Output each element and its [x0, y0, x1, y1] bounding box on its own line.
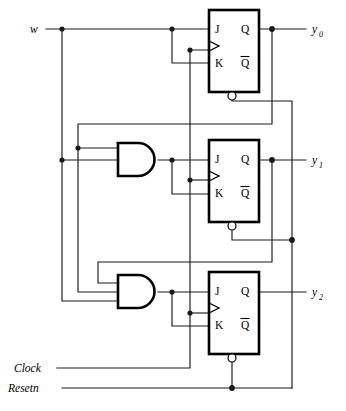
y1-sub: 1	[319, 161, 323, 170]
ff2-qbar-label: Q	[241, 319, 250, 331]
y0-output-label: y 0	[311, 23, 323, 39]
junction-clock-ff1	[187, 177, 192, 182]
flipflop-2: J Q K Q	[209, 272, 259, 362]
y0-sub: 0	[319, 30, 323, 39]
w-input-label: w	[30, 23, 38, 35]
wire-w-to-and2	[62, 29, 117, 301]
junction-ff0-jk	[169, 26, 174, 31]
ff1-q-label: Q	[241, 153, 250, 165]
junction-clock-ff0	[187, 47, 192, 52]
junction-ff2-jk	[169, 289, 174, 294]
y2-base: y	[311, 286, 318, 299]
junction-w-branch	[59, 26, 64, 31]
resetn-input-label: Resetn	[7, 382, 39, 394]
wire-ff1-reset	[232, 226, 292, 240]
junction-w-and1	[59, 157, 64, 162]
clock-input-label: Clock	[14, 362, 42, 374]
y1-base: y	[311, 154, 318, 167]
wire-clock-bus	[57, 50, 209, 368]
ff2-k-label: K	[215, 319, 224, 331]
and-gate-2	[118, 275, 155, 308]
flipflop-1: J Q K Q	[209, 140, 259, 230]
junction-y0-fb	[75, 145, 80, 150]
ff0-k-label: K	[215, 57, 224, 69]
ff1-j-label: J	[215, 153, 220, 165]
junction-ff1-jk	[169, 157, 174, 162]
ff1-qbar-label: Q	[241, 187, 250, 199]
ff0-q-label: Q	[241, 23, 250, 35]
junction-y0	[269, 26, 275, 32]
and-gate-1	[118, 143, 155, 176]
y2-output-label: y 2	[311, 286, 323, 302]
ff2-j-label: J	[215, 285, 220, 297]
wire-layer	[46, 29, 306, 388]
y0-base: y	[311, 23, 318, 36]
junction-resetn-ff2	[229, 385, 235, 391]
flipflop-0: J Q K Q	[209, 10, 259, 100]
ff0-qbar-label: Q	[241, 57, 250, 69]
junction-ff1-reset	[289, 237, 295, 243]
junction-y1	[269, 157, 275, 163]
ff1-k-label: K	[215, 187, 224, 199]
circuit-diagram: J Q K Q J Q K Q J Q K Q	[0, 0, 346, 411]
junction-clock-ff2	[187, 310, 192, 315]
ff2-q-label: Q	[241, 285, 250, 297]
y1-output-label: y 1	[311, 154, 323, 170]
ff0-j-label: J	[215, 23, 220, 35]
y2-sub: 2	[319, 293, 323, 302]
